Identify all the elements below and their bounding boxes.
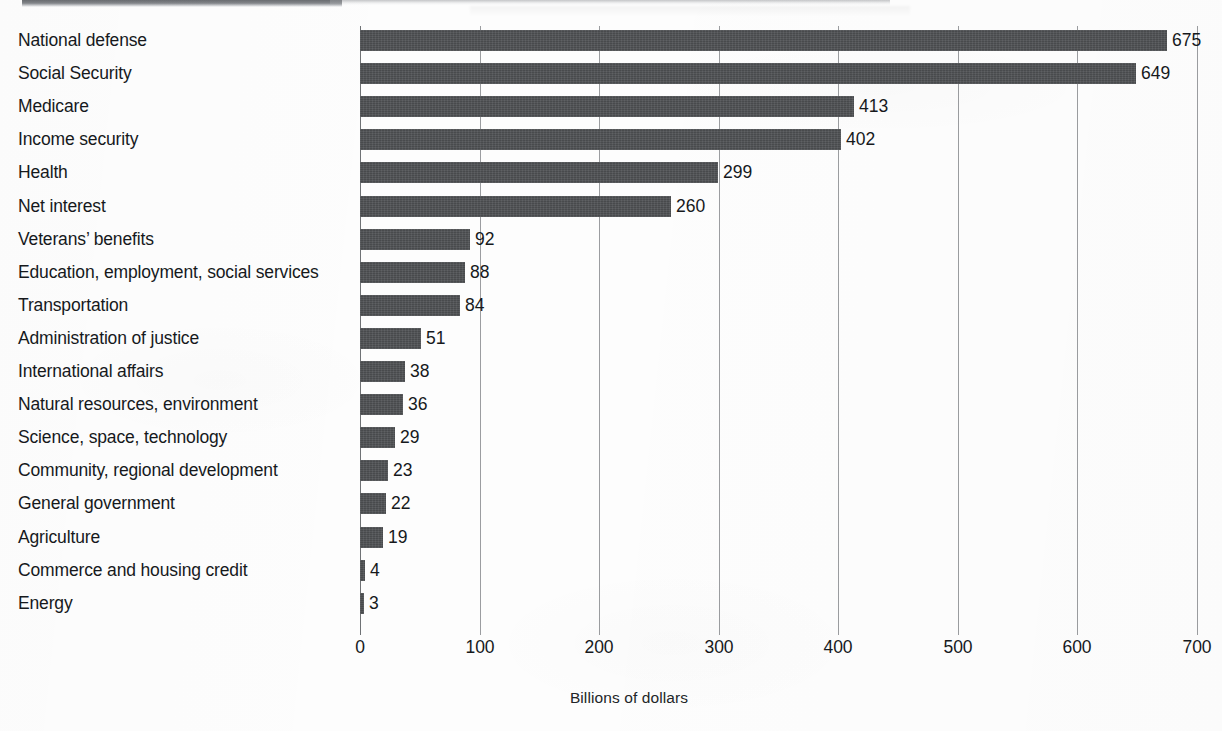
bar-row: General government22 [0, 492, 1222, 525]
category-label-16: Commerce and housing credit [18, 559, 247, 581]
bar-row: Social Security649 [0, 62, 1222, 95]
bar-7[interactable] [360, 262, 465, 283]
value-label-6: 92 [475, 228, 494, 250]
bar-16[interactable] [360, 560, 365, 581]
bar-row: International affairs38 [0, 360, 1222, 393]
bar-row: Natural resources, environment36 [0, 393, 1222, 426]
bar-row: National defense675 [0, 29, 1222, 62]
category-label-9: Administration of justice [18, 327, 199, 349]
category-label-4: Health [18, 161, 68, 183]
x-tick-label-0: 0 [355, 637, 365, 657]
bar-row: Administration of justice51 [0, 327, 1222, 360]
category-label-17: Energy [18, 592, 73, 614]
bar-row: Health299 [0, 161, 1222, 194]
bar-12[interactable] [360, 427, 395, 448]
value-label-4: 299 [723, 161, 752, 183]
value-label-15: 19 [388, 526, 407, 548]
category-label-10: International affairs [18, 360, 163, 382]
bar-row: Income security402 [0, 128, 1222, 161]
category-label-15: Agriculture [18, 526, 100, 548]
value-label-13: 23 [393, 459, 412, 481]
bar-8[interactable] [360, 295, 460, 316]
x-tick-label-400: 400 [823, 637, 852, 657]
bar-5[interactable] [360, 196, 671, 217]
bar-row: Net interest260 [0, 195, 1222, 228]
category-label-7: Education, employment, social services [18, 261, 319, 283]
category-label-12: Science, space, technology [18, 426, 227, 448]
bar-chart-plot-area: 0100200300400500600700 National defense6… [0, 0, 1222, 731]
value-label-9: 51 [426, 327, 445, 349]
value-label-3: 402 [846, 128, 875, 150]
value-label-16: 4 [370, 559, 380, 581]
category-label-6: Veterans’ benefits [18, 228, 154, 250]
bar-14[interactable] [360, 493, 386, 514]
value-label-5: 260 [676, 195, 705, 217]
category-label-8: Transportation [18, 294, 128, 316]
bar-row: Agriculture19 [0, 526, 1222, 559]
bar-15[interactable] [360, 527, 383, 548]
value-label-12: 29 [400, 426, 419, 448]
category-label-14: General government [18, 492, 175, 514]
bar-row: Education, employment, social services88 [0, 261, 1222, 294]
bar-10[interactable] [360, 361, 405, 382]
x-tick-label-200: 200 [584, 637, 613, 657]
bar-row: Transportation84 [0, 294, 1222, 327]
category-label-11: Natural resources, environment [18, 393, 258, 415]
bar-4[interactable] [360, 162, 718, 183]
category-label-0: National defense [18, 29, 147, 51]
bar-row: Commerce and housing credit4 [0, 559, 1222, 592]
category-label-13: Community, regional development [18, 459, 278, 481]
bar-row: Medicare413 [0, 95, 1222, 128]
bar-row: Veterans’ benefits92 [0, 228, 1222, 261]
category-label-1: Social Security [18, 62, 132, 84]
bar-row: Energy3 [0, 592, 1222, 625]
value-label-2: 413 [859, 95, 888, 117]
bar-9[interactable] [360, 328, 421, 349]
bar-row: Community, regional development23 [0, 459, 1222, 492]
value-label-8: 84 [465, 294, 484, 316]
value-label-17: 3 [369, 592, 379, 614]
bar-3[interactable] [360, 129, 841, 150]
category-label-2: Medicare [18, 95, 89, 117]
bar-row: Science, space, technology29 [0, 426, 1222, 459]
x-tick-label-100: 100 [465, 637, 494, 657]
chart-page: 0100200300400500600700 National defense6… [0, 0, 1222, 731]
bar-0[interactable] [360, 30, 1167, 51]
value-label-1: 649 [1141, 62, 1170, 84]
category-label-3: Income security [18, 128, 138, 150]
x-tick-label-500: 500 [943, 637, 972, 657]
bar-13[interactable] [360, 460, 388, 481]
value-label-11: 36 [408, 393, 427, 415]
bar-11[interactable] [360, 394, 403, 415]
value-label-10: 38 [410, 360, 429, 382]
x-tick-label-300: 300 [704, 637, 733, 657]
x-tick-label-700: 700 [1182, 637, 1211, 657]
x-tick-label-600: 600 [1062, 637, 1091, 657]
category-label-5: Net interest [18, 195, 106, 217]
x-axis-title: Billions of dollars [0, 689, 1222, 707]
value-label-0: 675 [1172, 29, 1201, 51]
bar-1[interactable] [360, 63, 1136, 84]
bar-17[interactable] [360, 593, 364, 614]
bar-2[interactable] [360, 96, 854, 117]
bar-6[interactable] [360, 229, 470, 250]
value-label-7: 88 [470, 261, 489, 283]
x-axis-title-text: Billions of dollars [570, 689, 688, 706]
value-label-14: 22 [391, 492, 410, 514]
